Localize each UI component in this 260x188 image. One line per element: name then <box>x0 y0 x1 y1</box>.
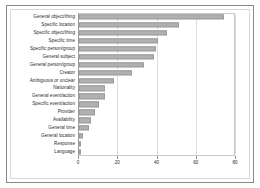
bar-row: Provider <box>0 108 260 116</box>
bar <box>79 110 95 115</box>
bar <box>79 22 179 27</box>
category-label: General object/thing <box>33 14 75 19</box>
category-label: General event/action <box>32 94 75 99</box>
x-tick-80 <box>235 156 236 159</box>
bar-row: General object/thing <box>0 13 260 21</box>
bar <box>79 30 167 35</box>
bar <box>79 78 114 83</box>
x-tick-label: 60 <box>193 160 198 166</box>
x-tick-20 <box>117 156 118 159</box>
bar <box>79 62 144 67</box>
bar-row: General subject <box>0 53 260 61</box>
bar <box>79 141 81 146</box>
bar-row: Specific object/thing <box>0 29 260 37</box>
x-axis: 020406080 <box>0 156 260 174</box>
bar <box>79 38 158 43</box>
category-label: Specific time <box>49 38 75 43</box>
bar <box>79 149 81 154</box>
bar-row: General location <box>0 132 260 140</box>
bar <box>79 14 224 19</box>
category-label: Specific location <box>41 22 75 27</box>
bar <box>79 133 83 138</box>
bar <box>79 70 132 75</box>
category-label: Nationality <box>53 86 75 91</box>
bar <box>79 126 89 131</box>
bar-row: General event/action <box>0 92 260 100</box>
bar-row: Response <box>0 140 260 148</box>
x-tick-label: 40 <box>154 160 159 166</box>
bar <box>79 118 91 123</box>
bar-rows: General object/thingSpecific locationSpe… <box>0 13 260 156</box>
bar <box>79 94 105 99</box>
x-tick-label: 80 <box>232 160 237 166</box>
bar <box>79 86 105 91</box>
category-label: Specific object/thing <box>34 30 76 35</box>
category-label: Response <box>54 141 75 146</box>
bar-row: Creator <box>0 69 260 77</box>
bar-row: Ambiguous or unclear <box>0 77 260 85</box>
x-tick-label: 20 <box>115 160 120 166</box>
bar-row: Specific person/group <box>0 45 260 53</box>
bar-row: General person/group <box>0 61 260 69</box>
category-label: General location <box>41 133 75 138</box>
category-label: Specific person/group <box>30 46 75 51</box>
category-label: Provider <box>58 110 75 115</box>
bar-row: Specific event/action <box>0 100 260 108</box>
bar-row: Nationality <box>0 85 260 93</box>
x-tick-label: 0 <box>77 160 80 166</box>
category-label: Specific event/action <box>32 102 75 107</box>
category-label: Ambiguous or unclear <box>30 78 75 83</box>
chart-figure: General object/thingSpecific locationSpe… <box>0 0 260 188</box>
bar-row: General time <box>0 124 260 132</box>
bar <box>79 102 99 107</box>
category-label: General person/group <box>30 62 75 67</box>
x-tick-40 <box>157 156 158 159</box>
category-label: General subject <box>42 54 75 59</box>
category-label: General time <box>48 125 75 130</box>
x-tick-0 <box>78 156 79 159</box>
category-label: Language <box>54 149 75 154</box>
bar <box>79 46 156 51</box>
bar-row: Specific location <box>0 21 260 29</box>
x-tick-60 <box>196 156 197 159</box>
bar-row: Language <box>0 148 260 156</box>
bar-row: Availability <box>0 116 260 124</box>
category-label: Creator <box>59 70 75 75</box>
category-label: Availability <box>53 118 75 123</box>
bar <box>79 54 154 59</box>
bar-row: Specific time <box>0 37 260 45</box>
